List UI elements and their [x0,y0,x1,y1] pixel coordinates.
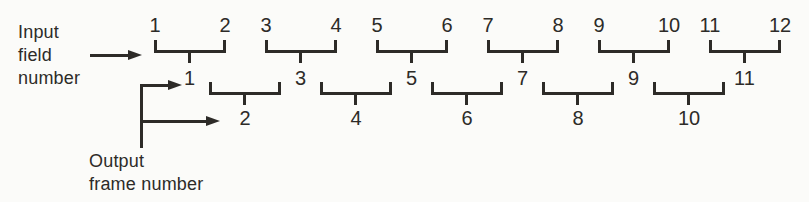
arrow-shaft [140,120,207,123]
output-label-line: frame number [89,173,203,196]
output-frame-number-upper: 11 [734,68,755,88]
field-pair-bracket-upper [154,40,226,53]
bracket-stem [521,50,524,63]
output-label-line: Output [89,150,203,173]
field-pair-bracket-upper [376,40,448,53]
input-field-number-label: Input field number [18,21,80,90]
input-field-number: 6 [441,15,452,35]
arrow-head-icon [128,50,142,60]
output-frame-number-lower: 8 [572,108,583,128]
output-frame-number-upper: 7 [517,68,528,88]
field-pair-bracket-upper [598,40,670,53]
bracket-stem [632,50,635,63]
input-field-number: 7 [482,15,493,35]
field-pair-bracket-upper [487,40,559,53]
bracket-stem [243,92,246,105]
input-field-number: 2 [219,15,230,35]
field-pair-bracket-lower [209,82,281,95]
field-pair-bracket-lower [320,82,392,95]
field-pair-bracket-lower [542,82,614,95]
input-field-number: 8 [552,15,563,35]
field-pair-bracket-upper [709,40,781,53]
output-frame-number-lower: 10 [678,108,700,128]
bracket-stem [299,50,302,63]
output-frame-number-lower: 2 [239,108,250,128]
input-field-number: 9 [593,15,604,35]
bracket-stem [576,92,579,105]
bracket-stem [188,50,191,63]
output-frame-number-upper: 1 [184,68,195,88]
input-field-number: 5 [371,15,382,35]
output-frame-number-upper: 5 [406,68,417,88]
input-field-number: 4 [330,15,341,35]
field-pair-bracket-lower [431,82,503,95]
output-frame-number-label: Output frame number [89,150,203,196]
field-to-frame-diagram: Input field number Output frame number 1… [0,0,809,202]
field-pair-bracket-upper [265,40,337,53]
input-field-number: 12 [769,15,791,35]
input-label-line: Input [18,21,80,44]
arrow-shaft [90,54,130,57]
output-frame-number-upper: 9 [628,68,639,88]
output-frame-number-lower: 4 [350,108,361,128]
branch-vertical-line [140,84,143,148]
input-field-number: 11 [700,15,721,35]
bracket-stem [687,92,690,105]
bracket-stem [465,92,468,105]
bracket-stem [410,50,413,63]
arrow-shaft [140,84,170,87]
field-pair-bracket-lower [653,82,725,95]
input-label-line: field [18,44,80,67]
bracket-stem [354,92,357,105]
input-field-number: 10 [658,15,680,35]
input-field-number: 3 [260,15,271,35]
arrow-head-icon [206,116,220,126]
input-label-line: number [18,67,80,90]
output-frame-number-upper: 3 [295,68,306,88]
input-field-number: 1 [149,15,160,35]
arrow-head-icon [168,80,182,90]
bracket-stem [743,50,746,63]
output-frame-number-lower: 6 [461,108,472,128]
